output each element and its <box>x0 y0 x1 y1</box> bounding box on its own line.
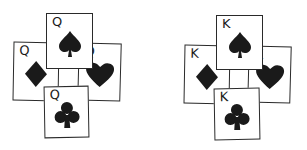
king-of-spades-card: K <box>216 15 263 70</box>
card-rank: Q <box>52 15 62 28</box>
king-of-clubs-card: K <box>214 88 261 141</box>
spade-icon <box>227 31 253 59</box>
queen-of-clubs-card: Q <box>44 86 90 139</box>
club-icon <box>53 100 79 128</box>
card-rank: K <box>190 47 199 60</box>
card-rank: K <box>220 90 229 103</box>
club-icon <box>224 102 250 130</box>
queen-of-spades-card: Q <box>46 13 93 69</box>
spade-icon <box>57 30 83 58</box>
card-rank: K <box>222 17 231 30</box>
card-rank: Q <box>50 88 60 101</box>
card-rank: Q <box>19 44 29 57</box>
